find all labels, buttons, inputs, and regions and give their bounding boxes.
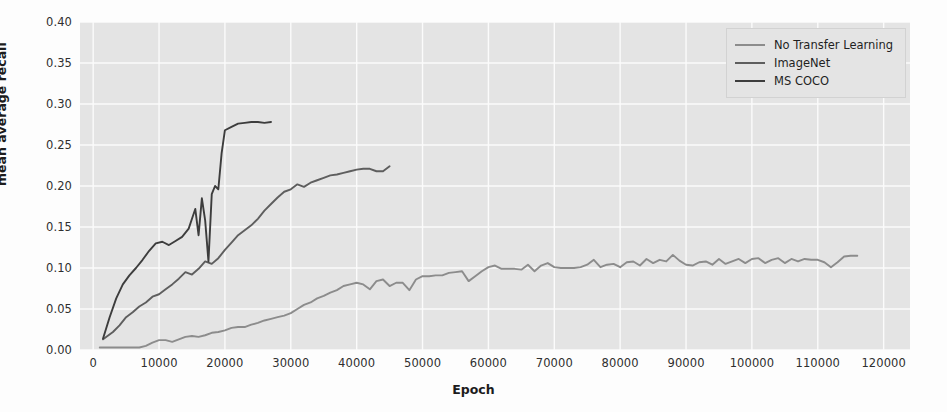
y-tick-label: 0.35 <box>10 56 72 70</box>
legend-label: MS COCO <box>774 74 829 88</box>
legend-item: No Transfer Learning <box>735 36 893 54</box>
series-line <box>100 255 858 348</box>
y-tick-label: 0.15 <box>10 220 72 234</box>
legend-label: ImageNet <box>774 56 830 70</box>
y-tick-label: 0.25 <box>10 138 72 152</box>
y-axis-label: mean average recall <box>0 42 9 186</box>
y-tick-label: 0.40 <box>10 15 72 29</box>
y-tick-label: 0.00 <box>10 343 72 357</box>
chart-figure: 0.000.050.100.150.200.250.300.350.40 010… <box>0 0 947 412</box>
x-axis-label: Epoch <box>0 382 947 397</box>
x-axis-ticks: 0100002000030000400005000060000700008000… <box>80 356 910 374</box>
legend-line-icon <box>735 44 765 46</box>
y-tick-label: 0.05 <box>10 302 72 316</box>
legend-label: No Transfer Learning <box>774 38 893 52</box>
x-tick-label: 120000 <box>829 356 939 370</box>
y-tick-label: 0.20 <box>10 179 72 193</box>
y-tick-label: 0.30 <box>10 97 72 111</box>
legend-line-icon <box>735 80 765 82</box>
y-tick-label: 0.10 <box>10 261 72 275</box>
legend-line-icon <box>735 62 765 64</box>
chart-legend: No Transfer LearningImageNetMS COCO <box>726 28 906 98</box>
legend-item: ImageNet <box>735 54 893 72</box>
y-axis-ticks: 0.000.050.100.150.200.250.300.350.40 <box>0 22 72 350</box>
legend-item: MS COCO <box>735 72 893 90</box>
series-line <box>103 166 390 339</box>
